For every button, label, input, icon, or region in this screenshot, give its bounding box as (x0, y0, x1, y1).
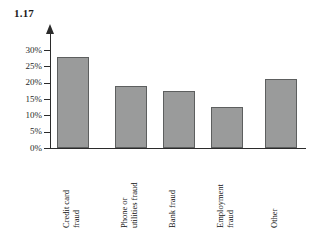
y-tick-mark (44, 99, 50, 100)
bar (57, 57, 89, 148)
y-tick-label: 15% (26, 95, 43, 104)
y-tick-label: 30% (26, 46, 43, 55)
x-axis-category-label: Credit card fraud (62, 154, 84, 228)
y-tick-mark (44, 50, 50, 51)
bar (211, 107, 243, 148)
x-axis-category-label: Bank fraud (168, 154, 190, 228)
y-tick-mark (44, 115, 50, 116)
x-axis-category-label: Phone or utilities fraud (120, 154, 142, 228)
bar (163, 91, 195, 148)
x-axis-category-label: Other (270, 154, 292, 228)
y-tick-label: 20% (26, 78, 43, 87)
bar (115, 86, 147, 148)
y-axis-line (50, 32, 51, 149)
y-tick-mark (44, 148, 50, 149)
y-tick-mark (44, 66, 50, 67)
y-axis-arrowhead-icon (46, 24, 54, 34)
y-tick-mark (44, 132, 50, 133)
x-axis-category-label: Employment fraud (216, 154, 238, 228)
figure-container: 1.17 0%5%10%15%20%25%30% Credit card fra… (0, 0, 322, 230)
bar-chart-plot: 0%5%10%15%20%25%30% Credit card fraudPho… (0, 0, 322, 230)
y-tick-mark (44, 83, 50, 84)
y-tick-label: 0% (30, 144, 42, 153)
bar (265, 79, 297, 148)
x-axis-line (50, 148, 306, 149)
y-tick-label: 5% (30, 127, 42, 136)
y-tick-label: 10% (26, 111, 43, 120)
y-tick-label: 25% (26, 62, 43, 71)
